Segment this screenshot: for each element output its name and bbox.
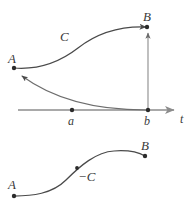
point-B-top: [145, 25, 149, 29]
point-A-bottom: [12, 194, 16, 198]
label-a: a: [68, 115, 74, 127]
label-curve-minus-C: −C: [78, 170, 95, 183]
figure-canvas: [0, 0, 195, 211]
point-B-bottom: [143, 154, 147, 158]
label-A-bottom: A: [8, 178, 16, 191]
point-b-tick: [146, 108, 150, 112]
vector-calculus-figure: A B C a b t A B −C: [0, 0, 195, 211]
label-B-bottom: B: [141, 139, 149, 152]
label-t-axis: t: [180, 113, 183, 125]
label-curve-C: C: [60, 30, 69, 43]
label-A-top: A: [8, 52, 16, 65]
label-B-top: B: [143, 10, 151, 23]
point-A-top: [12, 66, 16, 70]
arc-b-to-A-path: [22, 76, 146, 110]
point-a-tick: [70, 108, 74, 112]
label-b: b: [144, 115, 150, 127]
curve-C-path: [14, 27, 146, 68]
